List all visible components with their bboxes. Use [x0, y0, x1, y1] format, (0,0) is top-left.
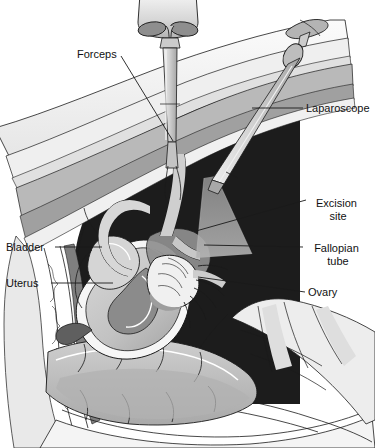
- label-fallopian-tube-line-2: tube: [327, 255, 348, 267]
- laparoscopy-illustration: Forceps Laparoscope Excision site Fallop…: [0, 0, 375, 448]
- label-laparoscope: Laparoscope: [306, 102, 370, 114]
- label-ovary: Ovary: [308, 286, 338, 298]
- label-bladder-line-1: Bladder: [6, 241, 44, 253]
- label-excision-site-line-2: site: [329, 210, 346, 222]
- label-fallopian-tube-line-1: Fallopian: [314, 242, 359, 254]
- label-uterus: Uterus: [6, 277, 39, 289]
- illustration-canvas: Forceps Laparoscope Excision site Fallop…: [0, 0, 375, 448]
- label-forceps-line-1: Forceps: [77, 48, 117, 60]
- label-laparoscope-line-1: Laparoscope: [306, 102, 370, 114]
- label-forceps: Forceps: [77, 48, 117, 60]
- label-uterus-line-1: Uterus: [6, 277, 39, 289]
- label-excision-site-line-1: Excision: [316, 197, 357, 209]
- label-ovary-line-1: Ovary: [308, 286, 338, 298]
- label-bladder: Bladder: [6, 241, 44, 253]
